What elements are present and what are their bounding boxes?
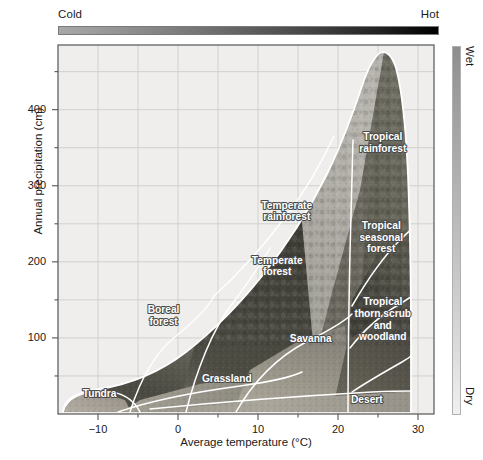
biome-label: Desert	[351, 394, 383, 405]
biome-label: Tundra	[83, 388, 117, 399]
biome-label: Grassland	[202, 373, 252, 384]
plot-area: TundraBorealforestTemperaterainforestTem…	[0, 0, 483, 460]
biome-label: Tropicalrainforest	[359, 131, 407, 154]
biome-label: Borealforest	[148, 304, 180, 327]
whittaker-biome-figure: Cold Hot Wet Dry Annual precipitation (c…	[0, 0, 483, 460]
biome-label: Temperaterainforest	[261, 200, 312, 223]
biome-label: Savanna	[290, 333, 332, 344]
